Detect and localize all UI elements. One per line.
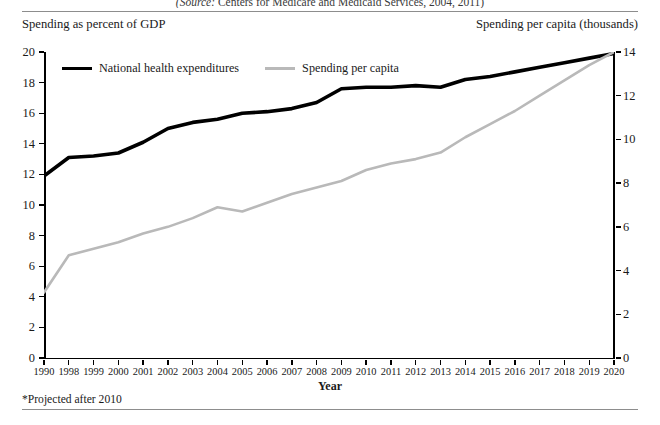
source-label: (Source: xyxy=(176,0,215,8)
source-text: Centers for Medicare and Medicaid Servic… xyxy=(215,0,484,8)
x-axis-tick xyxy=(514,360,515,365)
chart-legend: National health expenditures Spending pe… xyxy=(62,61,399,76)
y-axis-right-tick-label: 10 xyxy=(623,133,645,145)
y-axis-left-tick-label: 20 xyxy=(13,46,35,58)
x-axis-tick xyxy=(43,360,44,365)
y-axis-right-tick xyxy=(616,314,621,315)
x-axis-tick xyxy=(341,360,342,365)
y-axis-right-tick xyxy=(616,139,621,140)
series-canvas xyxy=(44,52,614,358)
legend-entry-spending-per-capita: Spending per capita xyxy=(265,61,399,76)
right-axis-caption: Spending per capita (thousands) xyxy=(476,17,638,32)
legend-label-spending-per-capita: Spending per capita xyxy=(302,61,399,76)
y-axis-right-tick xyxy=(616,226,621,227)
x-axis-tick xyxy=(68,360,69,365)
figure-root: (Source: Centers for Medicare and Medica… xyxy=(0,0,660,425)
source-credit: (Source: Centers for Medicare and Medica… xyxy=(0,0,660,8)
x-axis-tick xyxy=(167,360,168,365)
y-axis-left-tick-label: 4 xyxy=(13,291,35,303)
y-axis-left-tick-label: 0 xyxy=(13,352,35,364)
x-axis-tick xyxy=(316,360,317,365)
series-line-spending-per-capita xyxy=(44,52,614,292)
y-axis-left-tick-label: 18 xyxy=(13,77,35,89)
x-axis-tick xyxy=(390,360,391,365)
x-axis-tick xyxy=(613,360,614,365)
legend-swatch-spending-per-capita xyxy=(265,67,295,70)
legend-entry-national-health-expenditures: National health expenditures xyxy=(62,61,239,76)
y-axis-right-tick xyxy=(616,270,621,271)
x-axis-tick xyxy=(415,360,416,365)
x-axis-tick xyxy=(440,360,441,365)
y-axis-left-tick-label: 14 xyxy=(13,138,35,150)
x-axis-tick xyxy=(291,360,292,365)
y-axis-right-tick xyxy=(616,51,621,52)
y-axis-right-tick xyxy=(616,357,621,358)
y-axis-left-tick-label: 8 xyxy=(13,230,35,242)
x-axis-tick xyxy=(266,360,267,365)
x-axis-tick xyxy=(465,360,466,365)
x-axis-title: Year xyxy=(0,379,660,394)
x-axis-tick xyxy=(242,360,243,365)
plot-area xyxy=(44,52,614,358)
footnote: *Projected after 2010 xyxy=(22,393,122,406)
x-axis-tick xyxy=(118,360,119,365)
y-axis-right-tick xyxy=(616,95,621,96)
y-axis-right-tick-label: 2 xyxy=(623,308,645,320)
x-axis-tick xyxy=(93,360,94,365)
y-axis-right-tick xyxy=(616,182,621,183)
x-axis-tick xyxy=(365,360,366,365)
left-axis-caption: Spending as percent of GDP xyxy=(22,17,165,32)
y-axis-right-tick-label: 8 xyxy=(623,177,645,189)
y-axis-left-tick-label: 16 xyxy=(13,107,35,119)
y-axis-right-tick-label: 6 xyxy=(623,221,645,233)
x-axis-tick xyxy=(539,360,540,365)
bottom-divider xyxy=(22,409,638,410)
x-axis-tick xyxy=(142,360,143,365)
y-axis-left-tick-label: 10 xyxy=(13,199,35,211)
x-axis-tick xyxy=(589,360,590,365)
y-axis-right-tick-label: 14 xyxy=(623,46,645,58)
x-axis-tick xyxy=(489,360,490,365)
x-axis-tick xyxy=(564,360,565,365)
x-axis-tick xyxy=(192,360,193,365)
y-axis-left-tick-label: 2 xyxy=(13,321,35,333)
top-divider xyxy=(22,11,638,12)
x-axis-tick xyxy=(217,360,218,365)
y-axis-left-tick-label: 12 xyxy=(13,168,35,180)
legend-swatch-national-health-expenditures xyxy=(62,67,92,71)
y-axis-right-tick-label: 4 xyxy=(623,265,645,277)
y-axis-right-tick-label: 12 xyxy=(623,90,645,102)
x-axis-tick-label: 2020 xyxy=(597,366,631,378)
y-axis-left-tick-label: 6 xyxy=(13,260,35,272)
legend-label-national-health-expenditures: National health expenditures xyxy=(99,61,239,76)
y-axis-right-tick-label: 0 xyxy=(623,352,645,364)
